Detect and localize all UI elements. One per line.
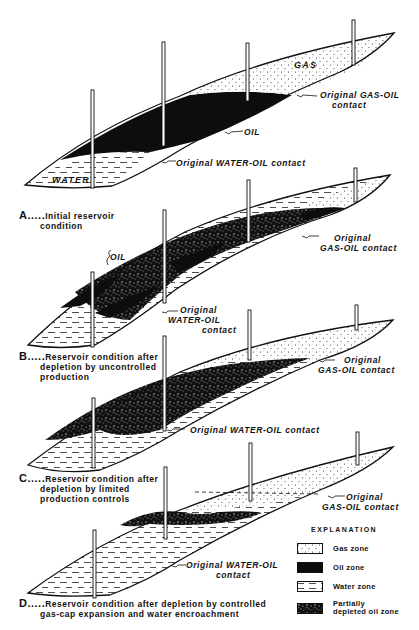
well <box>246 43 249 101</box>
gas-swatch-icon <box>297 543 323 554</box>
oil-label: OIL <box>244 127 260 137</box>
panel-d-caption: D.....Reservoir condition after depletio… <box>19 598 266 619</box>
legend-item-gas: Gas zone <box>297 540 417 557</box>
water-oil-contact-label: Original WATER-OIL contact <box>186 560 278 580</box>
legend-item-partial: Partially depleted oil zone <box>297 597 417 619</box>
oil-label: OIL <box>110 252 126 262</box>
panel-c-caption: C.....Reservoir condition after depletio… <box>19 473 158 504</box>
water-oil-contact-label: Original WATER-OIL contact <box>168 305 236 335</box>
water-oil-contact-label: Original WATER-OIL contact <box>190 425 320 435</box>
well <box>355 305 358 330</box>
water-oil-contact-label: Original WATER-OIL contact <box>176 158 306 168</box>
well <box>163 210 166 303</box>
well <box>92 398 95 468</box>
gas-oil-contact-label: Original GAS-OIL contact <box>320 90 400 110</box>
well <box>352 20 355 65</box>
legend-item-water: Water zone <box>297 578 417 595</box>
well <box>93 530 96 598</box>
well <box>248 310 251 360</box>
well <box>164 467 167 539</box>
well <box>163 336 166 431</box>
water-swatch-icon <box>297 581 323 592</box>
oil-swatch-icon <box>297 562 323 573</box>
legend: EXPLANATION Gas zone Oil zone Water zone… <box>297 526 417 621</box>
water-zone-label: WATER <box>52 175 90 185</box>
well <box>356 432 359 465</box>
gas-zone <box>180 33 394 96</box>
well <box>249 443 252 501</box>
gas-oil-contact-label: Original GAS-OIL contact <box>322 492 399 512</box>
well <box>91 272 94 347</box>
legend-item-oil: Oil zone <box>297 559 417 576</box>
gas-oil-contact-label: Original GAS-OIL contact <box>320 233 397 253</box>
well <box>247 180 250 242</box>
legend-label: Gas zone <box>333 545 369 553</box>
panel-b-caption: B.....Reservoir condition after depletio… <box>19 351 158 382</box>
legend-title: EXPLANATION <box>311 526 417 533</box>
legend-label: Oil zone <box>333 564 365 572</box>
well <box>162 42 165 146</box>
panel-a-caption: A.....Initial reservoir condition <box>19 210 115 231</box>
oil-zone <box>60 92 292 161</box>
well <box>354 168 357 202</box>
gas-oil-contact-label: Original GAS-OIL contact <box>318 355 395 375</box>
partial-swatch-icon <box>297 603 323 614</box>
legend-label: Water zone <box>333 583 376 591</box>
gas-zone-label: GAS <box>294 60 317 70</box>
legend-label: Partially depleted oil zone <box>333 600 399 616</box>
well <box>91 90 94 188</box>
